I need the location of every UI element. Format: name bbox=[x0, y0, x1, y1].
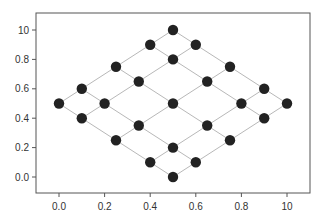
data-point bbox=[77, 84, 87, 94]
data-point bbox=[282, 98, 292, 108]
data-point bbox=[145, 40, 155, 50]
lattice-scatter-chart: 0.00.20.40.60.810 0.00.20.40.60.810 bbox=[0, 0, 326, 221]
y-tick-label: 0.8 bbox=[15, 54, 29, 65]
x-tick-label: 10 bbox=[281, 201, 293, 212]
data-point bbox=[54, 98, 64, 108]
data-point bbox=[134, 120, 144, 130]
data-point bbox=[236, 98, 246, 108]
data-point bbox=[191, 40, 201, 50]
y-tick-label: 0.4 bbox=[15, 113, 29, 124]
data-point bbox=[145, 157, 155, 167]
data-point bbox=[134, 76, 144, 86]
data-point bbox=[168, 172, 178, 182]
x-tick-label: 0.4 bbox=[143, 201, 157, 212]
y-tick-label: 0.6 bbox=[15, 83, 29, 94]
data-point bbox=[99, 98, 109, 108]
data-point bbox=[225, 135, 235, 145]
data-point bbox=[77, 113, 87, 123]
data-point bbox=[259, 84, 269, 94]
x-tick-label: 0.0 bbox=[52, 201, 66, 212]
y-tick-label: 0.0 bbox=[15, 172, 29, 183]
data-point bbox=[202, 76, 212, 86]
data-point bbox=[202, 120, 212, 130]
y-tick-label: 10 bbox=[18, 25, 30, 36]
data-point bbox=[168, 98, 178, 108]
data-point bbox=[111, 62, 121, 72]
data-point bbox=[168, 25, 178, 35]
data-point bbox=[168, 54, 178, 64]
y-tick-label: 0.2 bbox=[15, 142, 29, 153]
data-point bbox=[168, 142, 178, 152]
data-point bbox=[191, 157, 201, 167]
x-tick-label: 0.2 bbox=[98, 201, 112, 212]
x-axis: 0.00.20.40.60.810 bbox=[52, 193, 293, 212]
data-point bbox=[225, 62, 235, 72]
data-point bbox=[111, 135, 121, 145]
x-tick-label: 0.8 bbox=[234, 201, 248, 212]
y-axis: 0.00.20.40.60.810 bbox=[15, 25, 36, 183]
x-tick-label: 0.6 bbox=[189, 201, 203, 212]
data-point bbox=[259, 113, 269, 123]
